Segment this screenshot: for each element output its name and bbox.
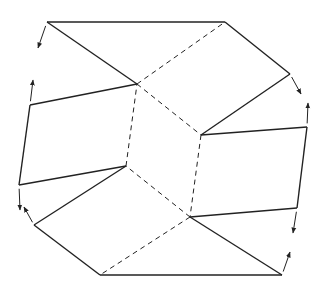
fold-arrow-icon [307,103,308,123]
solid-edge [225,22,290,74]
fold-arrow-icon [292,77,301,94]
solid-edge [190,208,297,217]
dashed-edge [126,84,137,166]
dashed-edges [100,22,225,275]
solid-edges [19,22,307,275]
dashed-edge [190,135,201,217]
fold-arrows [19,26,308,272]
solid-edge [47,22,137,84]
fold-arrow-icon [38,26,46,48]
solid-edge [201,127,307,135]
solid-edge [30,84,137,105]
fold-arrow-icon [293,212,296,233]
folding-diagram [0,0,321,291]
dashed-edge [137,84,201,135]
solid-edge [190,217,282,275]
solid-edge [201,74,290,135]
solid-edge [297,127,307,208]
dashed-edge [100,217,190,275]
fold-arrow-icon [30,80,33,101]
solid-edge [34,225,100,275]
dashed-edge [137,22,225,84]
fold-arrow-icon [19,189,20,210]
fold-arrow-icon [283,252,290,272]
fold-arrow-icon [24,207,33,222]
dashed-edge [126,166,190,217]
solid-edge [19,105,30,185]
